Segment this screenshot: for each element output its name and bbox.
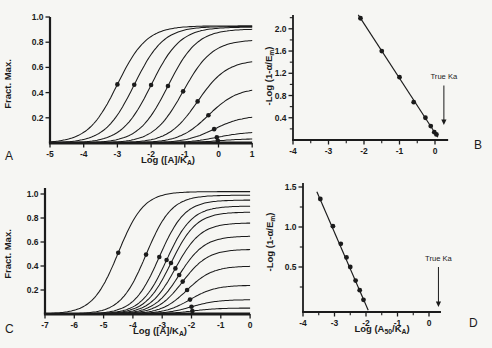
x-tick-label: -5 bbox=[100, 320, 108, 330]
y-tick-label: 0.4 bbox=[275, 113, 287, 123]
y-tick-label: 2.0 bbox=[275, 24, 287, 34]
y-tick-label: 0.4 bbox=[32, 88, 44, 98]
curve-midpoint-marker bbox=[115, 82, 120, 87]
curve-midpoint-marker bbox=[188, 297, 193, 302]
y-tick-label: 0.8 bbox=[32, 37, 44, 47]
curve-midpoint-marker bbox=[195, 99, 200, 104]
y-tick-label: 0.4 bbox=[27, 261, 39, 271]
x-tick-label: -1 bbox=[396, 146, 404, 156]
dose-response-curve bbox=[50, 41, 252, 143]
y-tick-label: 1.2 bbox=[275, 68, 287, 78]
panel-b-letter: B bbox=[474, 139, 482, 151]
y-tick-label: 1.6 bbox=[275, 46, 287, 56]
curve-midpoint-marker bbox=[177, 273, 182, 278]
true-ka-arrowhead bbox=[436, 302, 441, 308]
data-point bbox=[331, 224, 336, 229]
x-tick-label: 0 bbox=[427, 318, 432, 328]
panel-a-letter: A bbox=[5, 150, 13, 162]
dose-response-curve bbox=[45, 236, 250, 314]
curve-midpoint-marker bbox=[216, 138, 221, 143]
y-tick-label: 1.0 bbox=[27, 189, 39, 199]
dose-response-curve bbox=[45, 206, 250, 314]
y-tick-label: 0.8 bbox=[27, 213, 39, 223]
x-axis-title: Log ([A]/KA) bbox=[133, 325, 187, 337]
dose-response-curve bbox=[45, 212, 250, 314]
data-point bbox=[344, 255, 349, 260]
true-ka-label: True Ka bbox=[425, 254, 453, 263]
x-tick-label: 0 bbox=[216, 149, 221, 159]
true-ka-arrowhead bbox=[441, 119, 446, 125]
curve-midpoint-marker bbox=[181, 89, 186, 94]
curve-midpoint-marker bbox=[166, 84, 171, 89]
curve-midpoint-marker bbox=[212, 127, 217, 132]
curve-midpoint-marker bbox=[173, 266, 178, 271]
y-tick-label: 0.6 bbox=[27, 237, 39, 247]
data-point bbox=[338, 241, 343, 246]
data-point bbox=[411, 100, 416, 105]
panel-d-ka-estimation-plot: -4-3-2-100.51.01.5True KaLog (A50/KA)-Lo… bbox=[260, 172, 492, 348]
data-point bbox=[318, 197, 323, 202]
x-axis-title: Log ([A]/KA) bbox=[141, 154, 195, 166]
y-tick-label: 0.8 bbox=[275, 91, 287, 101]
dose-response-curve bbox=[45, 200, 250, 314]
x-tick-label: -4 bbox=[299, 318, 307, 328]
panel-b-ka-estimation-plot: -4-3-2-100.40.81.21.62.0True Ka-Log (1-α… bbox=[260, 0, 492, 172]
curve-midpoint-marker bbox=[157, 255, 162, 260]
y-tick-label: 0.2 bbox=[27, 285, 39, 295]
y-tick-label: 1.0 bbox=[32, 12, 44, 22]
y-tick-label: 0.5 bbox=[285, 262, 297, 272]
x-tick-label: 1 bbox=[250, 149, 255, 159]
true-ka-label: True Ka bbox=[431, 72, 459, 81]
curve-midpoint-marker bbox=[144, 252, 149, 257]
y-axis-title: Fract. Max. bbox=[2, 229, 13, 279]
panel-d-letter: D bbox=[469, 317, 478, 329]
y-tick-label: 1.5 bbox=[285, 182, 297, 192]
x-tick-label: 0 bbox=[248, 320, 253, 330]
panel-c-dose-response-plot: -7-6-5-4-3-2-100.20.40.60.81.0Log ([A]/K… bbox=[0, 172, 260, 348]
data-point bbox=[357, 288, 362, 293]
data-point bbox=[358, 16, 363, 21]
curve-midpoint-marker bbox=[206, 113, 211, 118]
x-tick-label: 0 bbox=[433, 146, 438, 156]
dose-response-curve bbox=[50, 117, 252, 143]
y-tick-label: 1.0 bbox=[285, 222, 297, 232]
x-tick-label: -3 bbox=[325, 146, 333, 156]
curve-midpoint-marker bbox=[190, 309, 195, 314]
dose-response-curve bbox=[45, 266, 250, 314]
y-axis-title: -Log (1-α/Em) bbox=[264, 213, 276, 272]
data-point bbox=[397, 75, 402, 80]
data-point bbox=[423, 115, 428, 120]
x-axis-title: Log (A50/KA) bbox=[354, 323, 409, 335]
data-point bbox=[361, 297, 366, 302]
x-tick-label: -5 bbox=[46, 149, 54, 159]
y-axis-title: -Log (1-α/Em) bbox=[263, 47, 275, 106]
curve-midpoint-marker bbox=[164, 258, 169, 263]
panel-a-dose-response-plot: -5-4-3-2-1010.20.40.60.81.0Log ([A]/KA)F… bbox=[0, 0, 260, 172]
x-tick-label: -6 bbox=[71, 320, 79, 330]
figure-furchgott-ka-analysis: -5-4-3-2-1010.20.40.60.81.0Log ([A]/KA)F… bbox=[0, 0, 492, 348]
data-point bbox=[428, 124, 433, 129]
curve-midpoint-marker bbox=[116, 251, 121, 256]
x-tick-label: -4 bbox=[289, 146, 297, 156]
dose-response-curve bbox=[50, 90, 252, 143]
curve-midpoint-marker bbox=[149, 83, 154, 88]
panel-c-letter: C bbox=[5, 323, 14, 335]
y-tick-label: 0.2 bbox=[32, 113, 44, 123]
data-point bbox=[379, 49, 384, 54]
x-tick-label: -2 bbox=[360, 146, 368, 156]
curve-midpoint-marker bbox=[180, 279, 185, 284]
data-point bbox=[348, 265, 353, 270]
x-tick-label: -7 bbox=[41, 320, 49, 330]
data-point bbox=[353, 278, 358, 283]
x-tick-label: -3 bbox=[114, 149, 122, 159]
x-tick-label: -4 bbox=[80, 149, 88, 159]
y-axis-title: Fract. Max. bbox=[2, 59, 13, 109]
curve-midpoint-marker bbox=[132, 82, 137, 87]
x-tick-label: -1 bbox=[217, 320, 225, 330]
y-tick-label: 0.6 bbox=[32, 62, 44, 72]
dose-response-curve bbox=[50, 62, 252, 143]
curve-midpoint-marker bbox=[189, 305, 194, 310]
curve-midpoint-marker bbox=[185, 288, 190, 293]
x-tick-label: -2 bbox=[188, 320, 196, 330]
curve-midpoint-marker bbox=[169, 261, 174, 266]
